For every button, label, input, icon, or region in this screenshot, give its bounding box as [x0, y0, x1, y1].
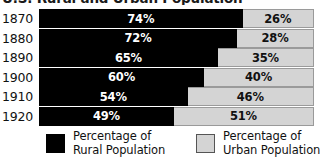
year-label: 1880	[0, 29, 33, 48]
legend-label-rural: Percentage of Rural Population	[73, 130, 165, 157]
legend-label-urban-line2: Urban Population	[223, 144, 320, 158]
bar-track: 65%35%	[39, 48, 314, 67]
bar-segment-urban: 26%	[243, 9, 315, 28]
bar-row: 190060%40%	[0, 68, 322, 87]
bar-segment-rural: 60%	[39, 68, 204, 87]
bar-value-rural: 74%	[127, 12, 154, 26]
bar-value-urban: 26%	[264, 12, 291, 26]
bar-segment-urban: 40%	[204, 68, 314, 87]
legend-label-rural-line1: Percentage of	[73, 129, 151, 143]
year-label: 1900	[0, 68, 33, 87]
bar-track: 72%28%	[39, 29, 314, 48]
bar-segment-urban: 28%	[237, 29, 314, 48]
bar-segment-rural: 65%	[39, 48, 218, 67]
year-label: 1890	[0, 48, 33, 67]
bar-segment-urban: 35%	[218, 48, 314, 67]
bar-row: 188072%28%	[0, 29, 322, 48]
bar-segment-rural: 72%	[39, 29, 237, 48]
bar-value-urban: 40%	[245, 70, 272, 84]
bar-track: 49%51%	[39, 107, 314, 126]
bar-track: 54%46%	[39, 87, 314, 106]
bar-track: 74%26%	[39, 9, 314, 28]
bar-value-urban: 51%	[230, 109, 257, 123]
legend-label-urban: Percentage of Urban Population	[223, 130, 320, 157]
year-label: 1920	[0, 107, 33, 126]
bar-value-urban: 35%	[252, 51, 279, 65]
bar-value-rural: 49%	[93, 109, 120, 123]
bar-row: 191054%46%	[0, 87, 322, 106]
bar-track: 60%40%	[39, 68, 314, 87]
bar-segment-urban: 46%	[188, 87, 315, 106]
year-label: 1910	[0, 87, 33, 106]
bar-row: 189065%35%	[0, 48, 322, 67]
bar-value-rural: 72%	[125, 31, 152, 45]
bar-value-urban: 46%	[237, 90, 264, 104]
bar-row: 192049%51%	[0, 107, 322, 126]
chart-container: U.S. Rural and Urban Population 187074%2…	[0, 0, 322, 164]
bar-row: 187074%26%	[0, 9, 322, 28]
chart-legend: Percentage of Rural Population Percentag…	[0, 130, 322, 164]
legend-label-rural-line2: Rural Population	[73, 144, 165, 158]
bar-value-urban: 28%	[262, 31, 289, 45]
legend-swatch-rural-icon	[46, 134, 65, 153]
chart-title: U.S. Rural and Urban Population	[2, 0, 320, 5]
bar-value-rural: 60%	[108, 70, 135, 84]
bar-segment-rural: 54%	[39, 87, 188, 106]
bar-value-rural: 54%	[100, 90, 127, 104]
bar-segment-urban: 51%	[174, 107, 314, 126]
bar-segment-rural: 74%	[39, 9, 243, 28]
bar-value-rural: 65%	[115, 51, 142, 65]
year-label: 1870	[0, 9, 33, 28]
legend-swatch-urban-icon	[196, 134, 215, 153]
plot-area: 187074%26%188072%28%189065%35%190060%40%…	[0, 9, 322, 126]
legend-label-urban-line1: Percentage of	[223, 129, 301, 143]
bar-segment-rural: 49%	[39, 107, 174, 126]
